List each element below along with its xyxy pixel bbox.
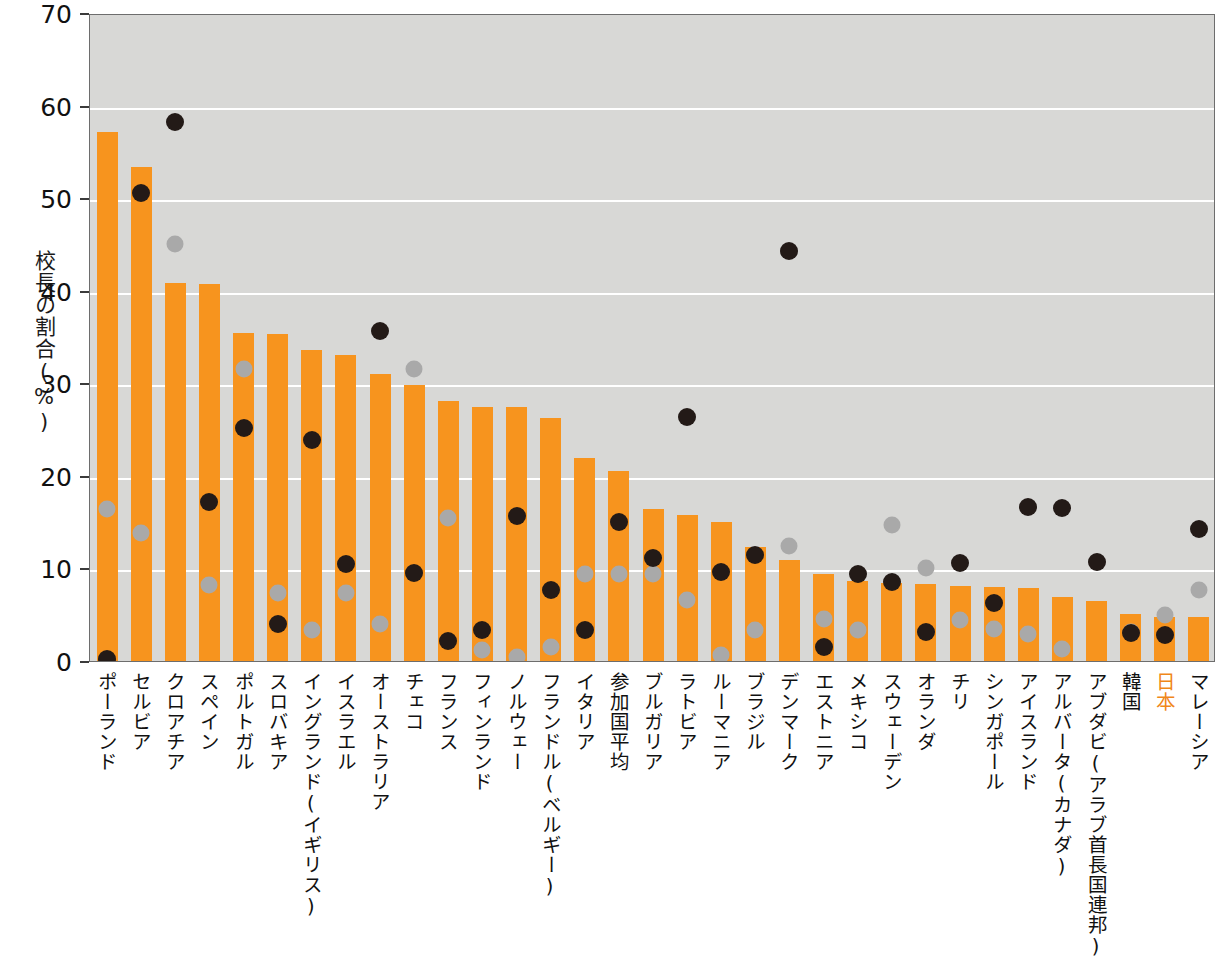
y-tick-mark-50: [80, 198, 89, 200]
y-tick-label-70: 70: [20, 0, 72, 29]
gray-marker: [747, 622, 764, 639]
black-marker: [166, 113, 184, 131]
gray-marker: [474, 641, 491, 658]
black-marker: [576, 621, 594, 639]
x-axis-label: シンガポール: [983, 672, 1004, 792]
y-tick-label-10: 10: [20, 555, 72, 584]
black-marker: [917, 623, 935, 641]
bar: [711, 522, 732, 661]
x-axis-label: イングランド(イギリス): [300, 672, 321, 918]
x-axis-label: スロバキア: [266, 672, 287, 772]
black-marker: [303, 431, 321, 449]
black-marker: [951, 554, 969, 572]
bar: [1018, 588, 1039, 661]
black-marker: [1190, 520, 1208, 538]
y-tick-label-60: 60: [20, 92, 72, 121]
black-marker: [200, 493, 218, 511]
black-marker: [508, 507, 526, 525]
black-marker: [1053, 499, 1071, 517]
black-marker: [473, 621, 491, 639]
x-axis-label: 日本: [1153, 672, 1174, 712]
black-marker: [337, 555, 355, 573]
black-marker: [1019, 498, 1037, 516]
x-axis-label: 韓国: [1119, 672, 1140, 712]
gray-marker: [986, 620, 1003, 637]
x-axis-label: スペイン: [198, 672, 219, 752]
black-marker: [746, 546, 764, 564]
gray-marker: [201, 577, 218, 594]
bar: [438, 401, 459, 661]
gray-marker: [1190, 581, 1207, 598]
gray-marker: [1054, 640, 1071, 657]
black-marker: [1088, 553, 1106, 571]
bar: [540, 418, 561, 661]
black-marker: [883, 573, 901, 591]
x-axis-label: フランドル(ベルギー): [539, 672, 560, 898]
gridline-50: [90, 200, 1214, 202]
black-marker: [542, 581, 560, 599]
gray-marker: [235, 361, 252, 378]
gray-marker: [337, 584, 354, 601]
black-marker: [1122, 624, 1140, 642]
y-tick-mark-60: [80, 106, 89, 108]
black-marker: [678, 408, 696, 426]
black-marker: [1156, 626, 1174, 644]
bar: [506, 407, 527, 661]
bar: [404, 385, 425, 661]
x-axis-label: メキシコ: [846, 672, 867, 752]
x-axis-label: エストニア: [812, 672, 833, 772]
x-axis-label: アルバータ(カナダ): [1051, 672, 1072, 878]
x-axis-label: クロアチア: [164, 672, 185, 772]
bar: [267, 334, 288, 661]
black-marker: [712, 563, 730, 581]
gray-marker: [815, 611, 832, 628]
gridline-20: [90, 478, 1214, 480]
bar: [677, 515, 698, 661]
gridline-60: [90, 108, 1214, 110]
bar: [779, 560, 800, 661]
bar: [165, 283, 186, 661]
gray-marker: [781, 538, 798, 555]
x-axis-label: 参加国平均: [607, 672, 628, 772]
gray-marker: [1156, 606, 1173, 623]
y-tick-mark-30: [80, 383, 89, 385]
bar: [97, 132, 118, 662]
x-axis-label: セルビア: [130, 672, 151, 752]
black-marker: [610, 513, 628, 531]
x-axis-label: イタリア: [573, 672, 594, 752]
bar: [1086, 601, 1107, 661]
gray-marker: [713, 646, 730, 662]
x-axis-label: ブラジル: [744, 672, 765, 752]
x-axis-label: チェコ: [403, 672, 424, 732]
x-axis-label: ポーランド: [96, 672, 117, 772]
gray-marker: [917, 559, 934, 576]
y-tick-label-0: 0: [20, 648, 72, 677]
gray-marker: [542, 639, 559, 656]
x-axis-label: アブダビ(アラブ首長国連邦): [1085, 672, 1106, 957]
gray-marker: [406, 361, 423, 378]
x-axis-label: スウェーデン: [880, 672, 901, 792]
gray-marker: [133, 525, 150, 542]
x-axis-label: アイスランド: [1017, 672, 1038, 792]
y-tick-label-20: 20: [20, 462, 72, 491]
chart-root: 校長の割合(%) 010203040506070 ポーランドセルビアクロアチアス…: [0, 0, 1224, 957]
black-marker: [849, 565, 867, 583]
black-marker: [132, 184, 150, 202]
x-axis-label: フィンランド: [471, 672, 492, 792]
y-tick-label-40: 40: [20, 277, 72, 306]
x-axis-label: ノルウェー: [505, 672, 526, 772]
x-axis-label: マレーシア: [1187, 672, 1208, 772]
bar: [233, 333, 254, 661]
black-marker: [985, 594, 1003, 612]
black-marker: [644, 549, 662, 567]
y-tick-mark-20: [80, 476, 89, 478]
x-axis-label: イスラエル: [334, 672, 355, 772]
bar: [1188, 617, 1209, 661]
black-marker: [235, 419, 253, 437]
gray-marker: [508, 649, 525, 662]
black-marker: [98, 650, 116, 662]
black-marker: [439, 632, 457, 650]
gray-marker: [99, 501, 116, 518]
gray-marker: [610, 565, 627, 582]
bar: [643, 509, 664, 661]
